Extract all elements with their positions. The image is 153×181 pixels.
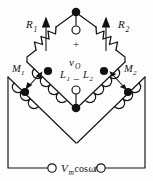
label-r1: R xyxy=(25,18,33,30)
label-output-voltage: v xyxy=(69,56,74,68)
label-r2-subscript: 2 xyxy=(126,25,130,34)
label-l2-subscript: 2 xyxy=(90,75,94,83)
output-plus-sign: + xyxy=(73,38,79,50)
terminal-output-plus xyxy=(72,26,80,34)
label-r1-subscript: 1 xyxy=(34,25,38,34)
wire-right-secondary-arm xyxy=(77,77,145,143)
label-source-waveform: cos xyxy=(75,163,88,174)
terminal-source-right xyxy=(97,164,105,172)
label-output-voltage-subscript: O xyxy=(75,62,81,71)
wire-r1-to-left-corner xyxy=(27,50,36,62)
label-r2: R xyxy=(117,18,125,30)
variable-arrow-head-r2 xyxy=(102,17,110,28)
terminal-output-minus xyxy=(72,86,80,94)
label-l2: L xyxy=(82,69,89,80)
label-m1-subscript: 1 xyxy=(21,69,25,77)
polarity-dot-secondary-left xyxy=(21,88,29,96)
label-source-time: t xyxy=(95,163,98,174)
wire-r2-to-right-corner xyxy=(116,50,125,62)
resistor-zigzag-r1 xyxy=(35,27,57,50)
label-m2-subscript: 2 xyxy=(133,69,137,77)
wire-top-node-to-r1 xyxy=(56,14,74,27)
circuit-schematic-canvas: R 1 R 2 + v O − L 1 xyxy=(0,0,153,181)
polarity-dot-l2 xyxy=(100,67,108,75)
output-minus-sign: − xyxy=(73,73,79,85)
polarity-dot-l1 xyxy=(44,67,52,75)
label-l1-subscript: 1 xyxy=(67,75,71,83)
wire-left-secondary-arm xyxy=(8,77,76,143)
resistor-zigzag-r2 xyxy=(96,27,118,50)
terminal-source-left xyxy=(48,164,56,172)
circuit-diagram-figure: R 1 R 2 + v O − L 1 xyxy=(0,0,153,181)
label-l1: L xyxy=(59,69,66,80)
node-bridge-center-bottom xyxy=(72,104,81,113)
wire-top-node-to-r2 xyxy=(78,14,96,27)
variable-arrow-head-r1 xyxy=(42,17,50,28)
